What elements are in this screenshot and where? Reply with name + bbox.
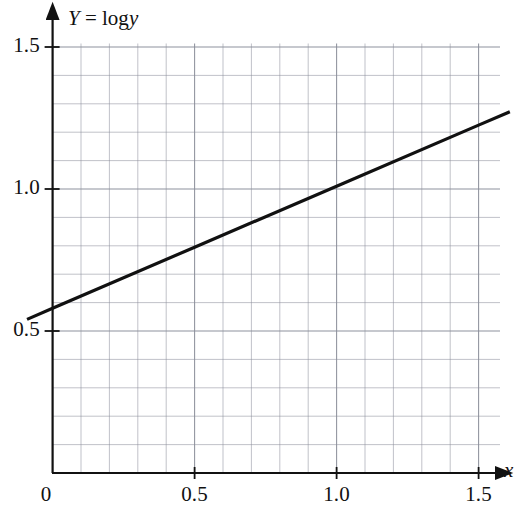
x-axis-tick-label: 0: [26, 482, 66, 507]
y-axis-title-function: log: [102, 6, 129, 30]
y-axis-title: Y = logy: [68, 6, 138, 31]
x-axis-tick-label: 0.5: [175, 482, 215, 507]
y-axis-tick-label: 0.5: [0, 317, 40, 342]
data-series-group: [27, 112, 510, 320]
x-axis-title: x: [504, 458, 513, 483]
data-line: [27, 112, 510, 320]
grid-lines: [53, 44, 500, 474]
y-axis-title-symbol: Y: [68, 6, 80, 30]
x-axis-tick-label: 1.5: [459, 482, 499, 507]
y-axis-tick-label: 1.0: [0, 175, 40, 200]
y-axis-title-equals: =: [85, 6, 97, 30]
chart-plot-area: [0, 0, 519, 527]
y-axis-tick-label: 1.5: [0, 33, 40, 58]
chart-figure: 00.51.01.5 0.51.01.5 Y = logy x: [0, 0, 519, 527]
y-axis-title-argument: y: [129, 6, 138, 30]
x-axis-tick-label: 1.0: [317, 482, 357, 507]
